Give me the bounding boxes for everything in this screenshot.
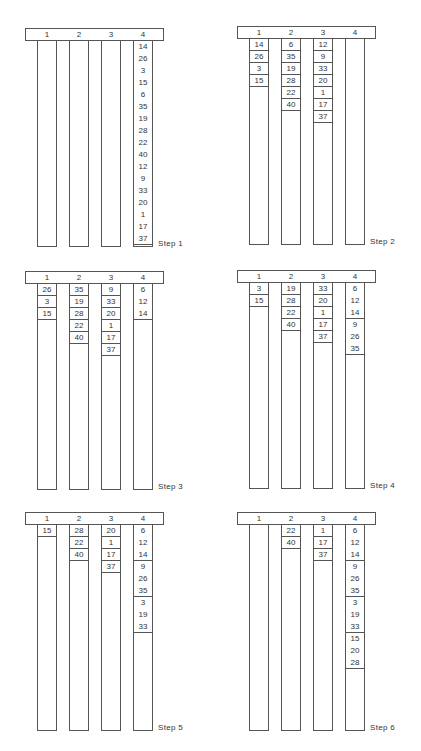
stack-cell: 14 — [250, 39, 268, 51]
column-header-label: 3 — [101, 29, 121, 41]
stack-cell: 20 — [134, 197, 152, 209]
column-header-bar: 1234 — [25, 28, 164, 41]
stack-column-4: 61214 — [133, 284, 153, 490]
stack-cell: 35 — [282, 51, 300, 63]
stack-cell: 6 — [134, 525, 152, 537]
stack-column-4: 142631563519282240129332011737 — [133, 41, 153, 247]
stack-cell: 12 — [314, 39, 332, 51]
stack-cell: 15 — [250, 75, 268, 87]
stack-cell: 28 — [70, 525, 88, 537]
step-label: Step 4 — [370, 481, 395, 490]
stack-cell: 6 — [134, 89, 152, 101]
step-label: Step 5 — [158, 723, 183, 732]
stack-cell: 19 — [346, 609, 364, 621]
stack-cell: 37 — [314, 331, 332, 343]
stack-column-4: 6121492635 — [345, 283, 365, 489]
stack-cell: 9 — [346, 561, 364, 573]
stack-cell: 3 — [134, 597, 152, 609]
stack-cell: 17 — [314, 99, 332, 111]
stack-cell: 12 — [134, 296, 152, 308]
stack-column-1 — [37, 41, 57, 247]
stack-cell: 9 — [134, 173, 152, 185]
stack-cell: 26 — [250, 51, 268, 63]
stack-cell: 33 — [346, 621, 364, 633]
stack-cell: 1 — [314, 87, 332, 99]
stack-cell: 12 — [134, 161, 152, 173]
stack-cell: 14 — [134, 41, 152, 53]
stack-cell: 6 — [346, 283, 364, 295]
stack-cell: 35 — [346, 343, 364, 355]
stack-cell: 6 — [134, 284, 152, 296]
stack-cell: 19 — [70, 296, 88, 308]
column-header-bar: 1234 — [25, 512, 164, 525]
stack-cell: 22 — [70, 537, 88, 549]
column-header-label: 4 — [133, 272, 153, 284]
stack-cell: 28 — [134, 125, 152, 137]
stack-cell: 14 — [134, 549, 152, 561]
stack-column-2: 282240 — [69, 525, 89, 731]
stack-cell: 35 — [134, 101, 152, 113]
stack-cell: 15 — [38, 525, 56, 537]
step-label: Step 3 — [158, 482, 183, 491]
column-header-label: 2 — [69, 272, 89, 284]
stack-cell: 3 — [134, 65, 152, 77]
stack-column-4: 612149263531933152028 — [345, 525, 365, 731]
stack-cell: 20 — [102, 308, 120, 320]
stack-column-1 — [249, 525, 269, 731]
stack-cell: 33 — [314, 63, 332, 75]
stack-cell: 19 — [134, 609, 152, 621]
stack-cell: 40 — [134, 149, 152, 161]
stack-column-1: 15 — [37, 525, 57, 731]
column-header-bar: 1234 — [237, 270, 376, 283]
stack-cell: 22 — [282, 525, 300, 537]
stack-cell: 37 — [102, 344, 120, 356]
column-header-label: 3 — [313, 27, 333, 39]
stack-cell: 15 — [250, 295, 268, 307]
column-header-label: 2 — [69, 29, 89, 41]
stack-cell: 26 — [346, 331, 364, 343]
stack-cell: 17 — [134, 221, 152, 233]
column-header-label: 3 — [101, 272, 121, 284]
column-header-label: 1 — [249, 271, 269, 283]
stack-column-4 — [345, 39, 365, 245]
stack-cell: 3 — [346, 597, 364, 609]
stack-cell: 12 — [134, 537, 152, 549]
stack-cell: 1 — [314, 307, 332, 319]
column-header-label: 3 — [101, 513, 121, 525]
stack-cell: 26 — [134, 573, 152, 585]
stack-cell: 1 — [102, 537, 120, 549]
step-label: Step 6 — [370, 723, 395, 732]
stack-cell: 26 — [134, 53, 152, 65]
column-header-label: 1 — [37, 29, 57, 41]
stack-cell: 37 — [102, 561, 120, 573]
stack-cell: 20 — [314, 295, 332, 307]
stack-cell: 20 — [346, 645, 364, 657]
column-header-bar: 1234 — [25, 271, 164, 284]
stack-cell: 37 — [314, 549, 332, 561]
column-header-label: 4 — [345, 27, 365, 39]
stack-cell: 9 — [346, 319, 364, 331]
column-header-bar: 1234 — [237, 512, 376, 525]
stack-cell: 14 — [346, 549, 364, 561]
stack-cell: 40 — [70, 549, 88, 561]
stack-cell: 17 — [102, 332, 120, 344]
column-header-label: 2 — [281, 27, 301, 39]
column-header-label: 4 — [133, 513, 153, 525]
stack-cell: 33 — [134, 185, 152, 197]
stack-cell: 6 — [346, 525, 364, 537]
stack-cell: 3 — [250, 63, 268, 75]
stack-column-2: 3519282240 — [69, 284, 89, 490]
stack-cell: 40 — [282, 537, 300, 549]
stack-column-4: 612149263531933 — [133, 525, 153, 731]
stack-column-2 — [69, 41, 89, 247]
step-panel-6: 1234224011737612149263531933152028Step 6 — [237, 512, 417, 744]
stack-cell: 15 — [134, 77, 152, 89]
stack-cell: 15 — [346, 633, 364, 645]
column-header-label: 1 — [37, 513, 57, 525]
stack-cell: 28 — [70, 308, 88, 320]
stack-cell: 12 — [346, 537, 364, 549]
step-panel-2: 1234142631563519282240129332011737Step 2 — [237, 26, 417, 258]
stack-cell: 40 — [282, 99, 300, 111]
column-header-label: 4 — [345, 513, 365, 525]
stack-cell: 17 — [102, 549, 120, 561]
